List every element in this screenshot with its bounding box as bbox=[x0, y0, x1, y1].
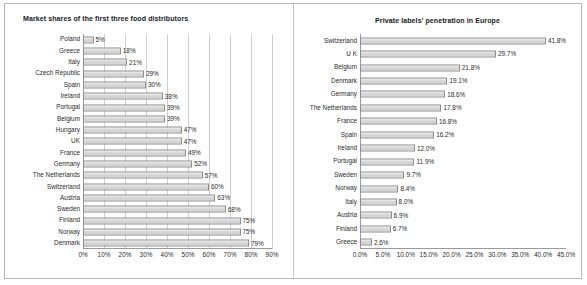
bar-row: Czech Republic29% bbox=[83, 68, 272, 79]
bar-with-label: 47% bbox=[83, 127, 272, 134]
gridline-market-shares-9 bbox=[272, 34, 273, 249]
category-label: Hungary bbox=[56, 127, 80, 133]
bar-value-label: 47% bbox=[184, 127, 197, 133]
bar bbox=[360, 78, 447, 85]
x-axis-ticks-private-labels: 0.0%5.0%10.0%15.0%20.0%25.0%30.0%35.0%40… bbox=[360, 249, 566, 263]
bar-rows-market-shares: Poland5%Greece18%Italy21%Czech Republic2… bbox=[83, 34, 272, 249]
bar bbox=[360, 239, 372, 246]
bar-with-label: 68% bbox=[83, 206, 272, 213]
bar-row: Belgium21.8% bbox=[360, 61, 566, 74]
bar-value-label: 12.0% bbox=[417, 145, 435, 151]
x-tick-label: 60% bbox=[203, 252, 216, 258]
bar-with-label: 57% bbox=[83, 172, 272, 179]
bar-value-label: 11.9% bbox=[416, 158, 434, 164]
bar-value-label: 19.1% bbox=[449, 78, 467, 84]
bar-with-label: 18% bbox=[83, 47, 272, 54]
bar bbox=[83, 104, 165, 111]
bar bbox=[83, 195, 215, 202]
bar-row: UK47% bbox=[83, 136, 272, 147]
category-label: Ireland bbox=[60, 93, 80, 99]
bar-value-label: 57% bbox=[205, 172, 218, 178]
category-label: Germany bbox=[54, 161, 80, 167]
bar-row: Denmark19.1% bbox=[360, 74, 566, 87]
bar-row: France16.8% bbox=[360, 115, 566, 128]
bar-value-label: 75% bbox=[243, 217, 256, 223]
bar-with-label: 5% bbox=[83, 36, 272, 43]
x-axis-ticks-market-shares: 0%10%20%30%40%50%60%70%80%90% bbox=[83, 249, 272, 263]
bar bbox=[83, 206, 226, 213]
bar bbox=[360, 212, 392, 219]
bar-with-label: 38% bbox=[83, 93, 272, 100]
bar-row: Sweden9.7% bbox=[360, 168, 566, 181]
bar-value-label: 21.8% bbox=[462, 64, 480, 70]
bar-with-label: 8.0% bbox=[360, 198, 566, 205]
bar-row: The Netherlands57% bbox=[83, 170, 272, 181]
bar bbox=[83, 115, 165, 122]
bar-value-label: 16.8% bbox=[439, 118, 457, 124]
category-label: France bbox=[337, 118, 357, 124]
x-tick-label: 70% bbox=[224, 252, 237, 258]
bar-value-label: 6.7% bbox=[393, 226, 408, 232]
bar-row: Portugal39% bbox=[83, 102, 272, 113]
bar-value-label: 9.7% bbox=[406, 172, 421, 178]
x-tick-label: 50% bbox=[182, 252, 195, 258]
bar-with-label: 29% bbox=[83, 70, 272, 77]
bar bbox=[83, 70, 144, 77]
bar-with-label: 9.7% bbox=[360, 172, 566, 179]
bar-with-label: 60% bbox=[83, 183, 272, 190]
category-label: Germany bbox=[331, 91, 357, 97]
bar-with-label: 8.4% bbox=[360, 185, 566, 192]
chart-title-private-labels: Private labels' penetration in Europe bbox=[294, 17, 581, 24]
bar-value-label: 16.2% bbox=[436, 132, 454, 138]
x-tick-label: 35.0% bbox=[511, 252, 529, 258]
category-label: Greece bbox=[336, 239, 357, 245]
category-label: The Netherlands bbox=[310, 105, 357, 111]
bar-value-label: 68% bbox=[228, 206, 241, 212]
bar-value-label: 39% bbox=[167, 104, 180, 110]
category-label: Sweden bbox=[57, 206, 80, 212]
bar-row: Spain30% bbox=[83, 79, 272, 90]
bar-value-label: 63% bbox=[217, 195, 230, 201]
category-label: Poland bbox=[60, 36, 80, 42]
x-tick-label: 10.0% bbox=[397, 252, 415, 258]
bar-with-label: 29.7% bbox=[360, 51, 566, 58]
bar bbox=[83, 81, 146, 88]
bar bbox=[83, 36, 94, 43]
bar-row: Belgium39% bbox=[83, 113, 272, 124]
bar bbox=[83, 47, 121, 54]
bar bbox=[83, 149, 186, 156]
x-tick-label: 20% bbox=[119, 252, 132, 258]
category-label: Spain bbox=[64, 82, 80, 88]
x-tick-label: 5.0% bbox=[376, 252, 391, 258]
category-label: Austria bbox=[60, 195, 80, 201]
bar-row: Ireland38% bbox=[83, 91, 272, 102]
x-tick-label: 30% bbox=[140, 252, 153, 258]
bar-row: Finland6.7% bbox=[360, 222, 566, 235]
bar-value-label: 17.8% bbox=[443, 105, 461, 111]
bar bbox=[360, 185, 398, 192]
category-label: Portugal bbox=[333, 158, 357, 164]
bar-with-label: 6.9% bbox=[360, 212, 566, 219]
bar-row: Norway75% bbox=[83, 226, 272, 237]
bar-row: Germany18.6% bbox=[360, 88, 566, 101]
category-label: Norway bbox=[335, 185, 357, 191]
category-label: Switzerland bbox=[324, 38, 357, 44]
bar-row: Portugal11.9% bbox=[360, 155, 566, 168]
x-tick-label: 10% bbox=[98, 252, 111, 258]
bar-with-label: 16.2% bbox=[360, 131, 566, 138]
bar-row: Hungary47% bbox=[83, 125, 272, 136]
chart-panel-private-labels: Private labels' penetration in Europe Sw… bbox=[293, 4, 581, 278]
bar-value-label: 79% bbox=[251, 240, 264, 246]
bar-with-label: 16.8% bbox=[360, 118, 566, 125]
bar-value-label: 38% bbox=[165, 93, 178, 99]
bar-with-label: 12.0% bbox=[360, 145, 566, 152]
x-tick-label: 45.0% bbox=[557, 252, 575, 258]
bar bbox=[83, 217, 241, 224]
bar-value-label: 18.6% bbox=[447, 91, 465, 97]
bar-with-label: 49% bbox=[83, 149, 272, 156]
bar-value-label: 29% bbox=[146, 70, 159, 76]
bar-row: Greece2.6% bbox=[360, 236, 566, 249]
category-label: Finland bbox=[59, 217, 80, 223]
bar-with-label: 79% bbox=[83, 240, 272, 247]
bar bbox=[360, 104, 441, 111]
